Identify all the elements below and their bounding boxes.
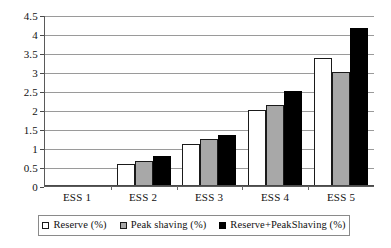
bar-chart: 00.511.522.533.544.5 ESS 1ESS 2ESS 3ESS … bbox=[0, 0, 391, 248]
legend-item[interactable]: Reserve+PeakShaving (%) bbox=[219, 220, 345, 231]
y-tick-label: 0.5 bbox=[24, 163, 38, 174]
y-tick-label: 4 bbox=[32, 30, 38, 41]
y-axis: 00.511.522.533.544.5 bbox=[0, 0, 44, 205]
bar bbox=[266, 105, 284, 186]
x-tick-label: ESS 1 bbox=[44, 189, 110, 205]
y-tick-label: 1.5 bbox=[24, 125, 38, 136]
bar-group bbox=[45, 16, 111, 186]
bar bbox=[200, 139, 218, 187]
bar-group bbox=[111, 16, 177, 186]
bar-group bbox=[177, 16, 243, 186]
x-tick-label: ESS 4 bbox=[242, 189, 308, 205]
x-tick-label: ESS 5 bbox=[308, 189, 374, 205]
y-tick-label: 2.5 bbox=[24, 87, 38, 98]
bar-group bbox=[308, 16, 374, 186]
y-tick-label: 1 bbox=[32, 144, 38, 155]
bar bbox=[284, 91, 302, 186]
bar bbox=[314, 58, 332, 186]
legend-swatch-icon bbox=[42, 222, 49, 229]
chart-legend: Reserve (%)Peak shaving (%)Reserve+PeakS… bbox=[38, 215, 350, 236]
bar bbox=[350, 28, 368, 186]
x-tick-label: ESS 3 bbox=[176, 189, 242, 205]
bar-group bbox=[242, 16, 308, 186]
legend-swatch-icon bbox=[219, 222, 226, 229]
bar bbox=[117, 164, 135, 186]
x-axis-line bbox=[45, 185, 374, 186]
bar bbox=[153, 156, 171, 186]
plot-wrapper: 00.511.522.533.544.5 ESS 1ESS 2ESS 3ESS … bbox=[0, 0, 391, 205]
y-tick-label: 4.5 bbox=[24, 11, 38, 22]
legend-label: Reserve (%) bbox=[53, 220, 106, 231]
legend-item[interactable]: Peak shaving (%) bbox=[120, 220, 207, 231]
x-tick-label: ESS 2 bbox=[110, 189, 176, 205]
legend-swatch-icon bbox=[120, 222, 127, 229]
y-tick-mark bbox=[40, 187, 44, 188]
bar bbox=[248, 110, 266, 186]
y-tick-label: 3 bbox=[32, 68, 38, 79]
y-tick-label: 3.5 bbox=[24, 49, 38, 60]
bar-groups bbox=[45, 16, 374, 186]
x-axis-tick-labels: ESS 1ESS 2ESS 3ESS 4ESS 5 bbox=[44, 189, 374, 205]
bar bbox=[332, 72, 350, 186]
bar bbox=[135, 161, 153, 186]
plot-area bbox=[44, 16, 374, 187]
legend-item[interactable]: Reserve (%) bbox=[42, 220, 106, 231]
y-tick-label: 0 bbox=[32, 182, 38, 193]
legend-label: Reserve+PeakShaving (%) bbox=[230, 220, 345, 231]
y-tick-label: 2 bbox=[32, 106, 38, 117]
legend-label: Peak shaving (%) bbox=[131, 220, 207, 231]
bar bbox=[182, 144, 200, 186]
bar bbox=[218, 135, 236, 186]
